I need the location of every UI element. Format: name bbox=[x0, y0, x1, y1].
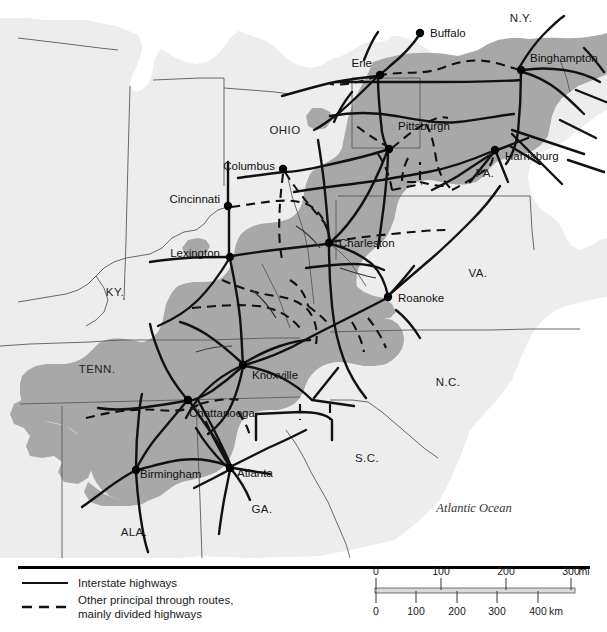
city-label-binghampton: Binghampton bbox=[530, 52, 598, 64]
legend-label-interstate: Interstate highways bbox=[78, 577, 177, 589]
city-birmingham[interactable]: Birmingham bbox=[132, 466, 202, 480]
state-label-tenn: TENN. bbox=[79, 363, 116, 375]
state-label-ohio: OHIO bbox=[270, 124, 301, 136]
map-figure-page: BuffaloErieBinghamptonPittsburghHarrisbu… bbox=[0, 0, 607, 632]
scale-km-tick-200: 200 bbox=[448, 605, 466, 617]
city-dot-erie[interactable] bbox=[376, 71, 384, 79]
city-label-pittsburgh: Pittsburgh bbox=[398, 120, 450, 132]
state-label-ky: KY. bbox=[106, 286, 124, 298]
state-label-va: VA. bbox=[469, 267, 488, 279]
water-label-layer: Atlantic Ocean bbox=[435, 501, 511, 515]
scale-bar-body bbox=[375, 588, 575, 593]
state-label-ny: N.Y. bbox=[510, 12, 532, 24]
city-label-cincinnati: Cincinnati bbox=[170, 193, 221, 205]
city-label-roanoke: Roanoke bbox=[398, 292, 444, 304]
city-label-birmingham: Birmingham bbox=[140, 468, 201, 480]
city-dot-columbus[interactable] bbox=[279, 165, 287, 173]
city-dot-harrisburg[interactable] bbox=[491, 146, 499, 154]
city-label-columbus: Columbus bbox=[223, 160, 275, 172]
legend-label-other-routes-line2: mainly divided highways bbox=[78, 608, 202, 620]
scale-mi-tick-0: 0 bbox=[373, 565, 379, 577]
city-dot-knoxville[interactable] bbox=[239, 361, 247, 369]
city-dot-lexington[interactable] bbox=[226, 253, 234, 261]
state-label-pa: PA. bbox=[476, 167, 495, 179]
city-dot-binghampton[interactable] bbox=[517, 66, 525, 74]
city-dot-charleston[interactable] bbox=[325, 239, 333, 247]
city-label-atlanta: Atlanta bbox=[237, 467, 273, 479]
city-dot-atlanta[interactable] bbox=[226, 464, 234, 472]
legend-label-other-routes-line1: Other principal through routes, bbox=[78, 594, 233, 606]
city-dot-pittsburgh[interactable] bbox=[385, 145, 393, 153]
scale-km-tick-100: 100 bbox=[407, 605, 425, 617]
scale-km-unit: km bbox=[549, 605, 563, 617]
city-dot-chattanooga[interactable] bbox=[184, 396, 192, 404]
city-label-harrisburg: Harrisburg bbox=[505, 150, 559, 162]
state-label-ala: ALA. bbox=[121, 526, 148, 538]
city-label-erie: Erie bbox=[352, 57, 372, 69]
appalachian-highway-map: BuffaloErieBinghamptonPittsburghHarrisbu… bbox=[0, 0, 607, 632]
city-label-knoxville: Knoxville bbox=[252, 369, 298, 381]
scale-mi-tick-300: 300 bbox=[562, 565, 580, 577]
state-label-sc: S.C. bbox=[355, 452, 379, 464]
scale-mi-unit: mi bbox=[578, 565, 589, 577]
city-dot-roanoke[interactable] bbox=[384, 293, 392, 301]
legend: Interstate highways Other principal thro… bbox=[22, 577, 233, 620]
city-label-buffalo: Buffalo bbox=[430, 27, 466, 39]
city-label-lexington: Lexington bbox=[170, 247, 220, 259]
city-dot-birmingham[interactable] bbox=[132, 466, 140, 474]
scale-mi-tick-100: 100 bbox=[432, 565, 450, 577]
state-label-nc: N.C. bbox=[436, 376, 461, 388]
city-label-chattanooga: Chattanooga bbox=[189, 407, 255, 419]
scale-km-tick-400: 400 bbox=[529, 605, 547, 617]
scale-km-tick-300: 300 bbox=[488, 605, 506, 617]
city-dot-buffalo[interactable] bbox=[416, 29, 424, 37]
state-label-ga: GA. bbox=[251, 503, 272, 515]
scale-bar: 0100200300mi0100200300400km bbox=[373, 565, 589, 617]
city-label-charleston: Charleston bbox=[339, 237, 395, 249]
city-dot-cincinnati[interactable] bbox=[224, 202, 232, 210]
ocean-label: Atlantic Ocean bbox=[435, 501, 511, 515]
scale-km-tick-0: 0 bbox=[373, 605, 379, 617]
scale-mi-tick-200: 200 bbox=[497, 565, 515, 577]
